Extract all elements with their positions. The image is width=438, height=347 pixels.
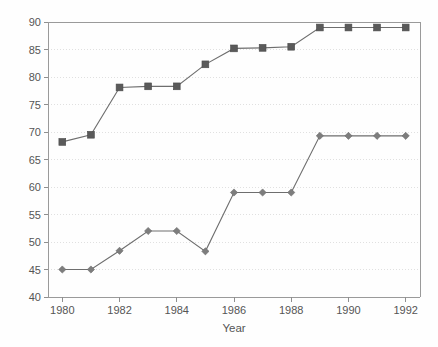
x-axis-ticks: 1980198219841986198819901992 (50, 297, 418, 316)
data-point-marker (230, 189, 237, 196)
y-tick-label: 40 (29, 291, 41, 303)
data-point-marker (316, 132, 323, 139)
data-point-marker (231, 45, 238, 52)
data-point-marker (116, 247, 123, 254)
data-point-marker (88, 131, 95, 138)
x-tick-label: 1984 (165, 304, 189, 316)
series-line-lower-series (62, 136, 405, 270)
data-point-marker (345, 132, 352, 139)
y-tick-label: 50 (29, 236, 41, 248)
x-axis-title: Year (222, 322, 245, 334)
line-chart: 4045505560657075808590 19801982198419861… (0, 0, 438, 347)
data-point-marker (59, 266, 66, 273)
y-axis-ticks: 4045505560657075808590 (29, 16, 48, 303)
y-tick-label: 85 (29, 44, 41, 56)
data-series-group (59, 24, 410, 273)
data-point-marker (345, 24, 352, 31)
y-tick-label: 60 (29, 181, 41, 193)
data-point-marker (202, 248, 209, 255)
data-point-marker (316, 24, 323, 31)
y-tick-label: 70 (29, 126, 41, 138)
data-point-marker (145, 83, 152, 90)
data-point-marker (373, 132, 380, 139)
y-tick-label: 80 (29, 71, 41, 83)
y-tick-label: 90 (29, 16, 41, 28)
data-point-marker (259, 189, 266, 196)
x-tick-label: 1982 (107, 304, 131, 316)
data-point-marker (116, 84, 123, 91)
x-tick-label: 1992 (393, 304, 417, 316)
y-tick-label: 75 (29, 99, 41, 111)
data-point-marker (87, 266, 94, 273)
data-point-marker (288, 189, 295, 196)
data-point-marker (402, 132, 409, 139)
y-tick-label: 55 (29, 209, 41, 221)
data-point-marker (173, 227, 180, 234)
chart-container: 4045505560657075808590 19801982198419861… (0, 0, 438, 347)
data-point-marker (145, 227, 152, 234)
data-point-marker (288, 43, 295, 50)
y-tick-label: 45 (29, 264, 41, 276)
x-tick-label: 1988 (279, 304, 303, 316)
data-point-marker (374, 24, 381, 31)
x-tick-label: 1986 (222, 304, 246, 316)
data-point-marker (202, 61, 209, 68)
x-tick-label: 1980 (50, 304, 74, 316)
x-tick-label: 1990 (336, 304, 360, 316)
y-tick-label: 65 (29, 154, 41, 166)
data-point-marker (59, 139, 66, 146)
gridlines-group (48, 22, 420, 270)
data-point-marker (402, 24, 409, 31)
series-line-upper-series (62, 28, 405, 142)
data-point-marker (173, 83, 180, 90)
data-point-marker (259, 44, 266, 51)
